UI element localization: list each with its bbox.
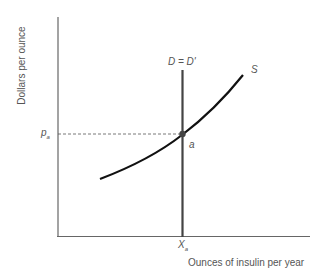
price-subscript: a — [47, 134, 50, 140]
quantity-label: Xa — [178, 239, 188, 252]
demand-label: D = D' — [168, 56, 196, 67]
x-axis-label: Ounces of insulin per year — [188, 257, 304, 268]
supply-curve — [100, 75, 243, 179]
supply-label: S — [251, 64, 258, 75]
diagram: Dollars per ounce D = D' S a pa Xa Ounce… — [0, 0, 318, 274]
quantity-symbol: X — [178, 239, 185, 250]
y-axis-label: Dollars per ounce — [16, 11, 27, 121]
equilibrium-point — [179, 131, 185, 137]
point-label: a — [189, 139, 195, 150]
price-label: pa — [41, 127, 50, 140]
quantity-subscript: a — [185, 246, 188, 252]
